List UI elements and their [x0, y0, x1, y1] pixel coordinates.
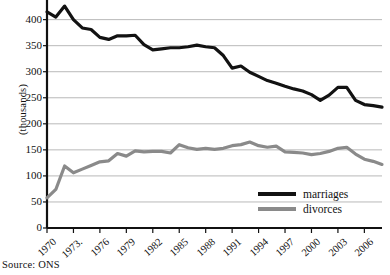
legend-label-marriages: marriages — [303, 188, 348, 200]
y-tick-label: 350 — [16, 40, 42, 51]
y-tick-label: 300 — [16, 66, 42, 77]
legend-swatch-divorces — [258, 207, 296, 211]
legend-item-divorces: divorces — [258, 201, 380, 216]
legend-swatch-marriages — [258, 192, 296, 196]
series-line-marriages — [47, 6, 382, 107]
source-note: Source: ONS — [2, 259, 60, 270]
legend-label-divorces: divorces — [303, 203, 342, 215]
y-tick-label: 250 — [16, 92, 42, 103]
y-tick-label: 400 — [16, 14, 42, 25]
y-tick-label: 100 — [16, 170, 42, 181]
legend-item-marriages: marriages — [258, 186, 380, 201]
chart-legend: marriagesdivorces — [258, 186, 380, 216]
y-axis-tick-labels: 050100150200250300350400 — [12, 0, 42, 275]
y-tick-label: 0 — [16, 222, 42, 233]
y-tick-label: 150 — [16, 144, 42, 155]
y-tick-label: 50 — [16, 196, 42, 207]
line-chart-figure: (thousands) 050100150200250300350400 197… — [0, 0, 390, 275]
chart-plot-area — [0, 0, 390, 275]
y-tick-label: 200 — [16, 118, 42, 129]
data-series-group — [47, 6, 382, 198]
